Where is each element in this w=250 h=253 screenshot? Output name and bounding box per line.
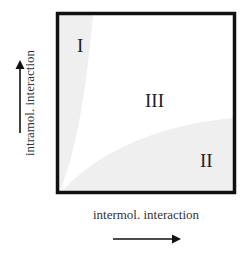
x-axis-arrow-icon xyxy=(113,235,181,244)
region-I-shading xyxy=(58,14,93,191)
region-label-III: III xyxy=(145,91,164,110)
x-axis-label: intermol. interaction xyxy=(56,207,236,223)
y-axis-label: intramol. interaction xyxy=(22,13,38,193)
region-label-I: I xyxy=(77,36,83,55)
region-label-II: II xyxy=(200,151,213,170)
